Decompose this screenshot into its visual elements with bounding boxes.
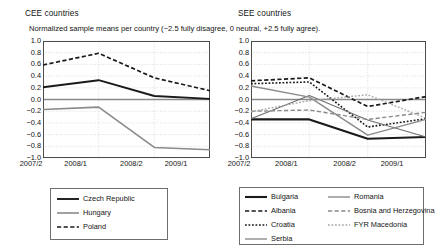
legend-item[interactable]: Hungary (57, 209, 111, 217)
legend-line-swatch (57, 209, 79, 217)
legend-line-swatch (245, 235, 267, 243)
y-tick-label: −0.4 (234, 119, 249, 126)
legend-line-swatch (328, 207, 350, 215)
x-tick-label: 2009/1 (165, 160, 188, 168)
y-tick-label: −0.6 (234, 131, 249, 138)
see-plot-area (251, 41, 426, 158)
x-tick-label: 2007/2 (20, 160, 43, 168)
x-tick-label: 2008/2 (333, 160, 356, 168)
y-tick-label: 0.8 (31, 49, 41, 56)
legend-line-swatch (328, 193, 350, 201)
cee-plot-area (43, 41, 210, 158)
y-tick-label: 0.4 (31, 72, 41, 79)
y-tick-label: 0.2 (239, 84, 249, 91)
y-tick-label: −0.2 (26, 107, 41, 114)
x-tick-label: 2008/1 (64, 160, 87, 168)
see-x-axis-labels: 2007/22008/12008/22009/1 (228, 160, 426, 172)
x-tick-label: 2008/2 (120, 160, 143, 168)
legend-label: FYR Macedonia (354, 221, 407, 229)
y-tick-label: 0.4 (239, 72, 249, 79)
legend-label: Hungary (83, 209, 111, 217)
legend-line-swatch (245, 221, 267, 229)
legend-item[interactable]: FYR Macedonia (328, 221, 407, 229)
legend-item[interactable]: Serbia (245, 235, 292, 243)
y-tick-label: −0.4 (26, 119, 41, 126)
figure-subtitle: Normalized sample means per country (−2.… (29, 24, 320, 33)
series-line (43, 53, 210, 90)
see-chart: 1.00.80.60.40.20.0−0.2−0.4−0.6−0.8−1.0 2… (228, 41, 426, 172)
see-legend: BulgariaAlbaniaCroatiaSerbiaRomaniaBosni… (239, 187, 424, 245)
cee-legend: Czech RepublicHungaryPoland (50, 188, 168, 240)
x-tick-label: 2009/1 (381, 160, 404, 168)
y-tick-label: 0.0 (31, 96, 41, 103)
y-tick-label: 0.6 (239, 61, 249, 68)
legend-item[interactable]: Czech Republic (57, 195, 135, 203)
plot-svg (251, 41, 426, 158)
y-tick-label: 0.2 (31, 84, 41, 91)
legend-label: Romania (354, 193, 384, 201)
legend-label: Albania (271, 207, 296, 215)
legend-label: Poland (83, 223, 106, 231)
cee-chart: 1.00.80.60.40.20.0−0.2−0.4−0.6−0.8−1.0 2… (20, 41, 210, 172)
x-tick-label: 2008/1 (275, 160, 298, 168)
y-tick-label: −0.8 (26, 143, 41, 150)
legend-item[interactable]: Bosnia and Herzegovina (328, 207, 435, 215)
legend-item[interactable]: Croatia (245, 221, 295, 229)
series-line (251, 86, 426, 135)
cee-panel-title: CEE countries (25, 9, 79, 18)
cee-x-axis-labels: 2007/22008/12008/22009/1 (20, 160, 210, 172)
legend-label: Czech Republic (83, 195, 135, 203)
series-line (43, 107, 210, 150)
legend-label: Croatia (271, 221, 295, 229)
legend-line-swatch (328, 221, 350, 229)
legend-line-swatch (245, 207, 267, 215)
legend-line-swatch (57, 195, 79, 203)
legend-item[interactable]: Albania (245, 207, 296, 215)
y-tick-label: 0.0 (239, 96, 249, 103)
series-line (43, 80, 210, 99)
y-tick-label: 0.6 (31, 61, 41, 68)
legend-label: Serbia (271, 235, 292, 243)
legend-line-swatch (57, 223, 79, 231)
cee-y-axis-labels: 1.00.80.60.40.20.0−0.2−0.4−0.6−0.8−1.0 (20, 41, 42, 158)
legend-line-swatch (245, 193, 267, 201)
legend-label: Bosnia and Herzegovina (354, 207, 435, 215)
y-tick-label: −0.8 (234, 143, 249, 150)
x-tick-label: 2007/2 (228, 160, 251, 168)
y-tick-label: 1.0 (31, 37, 41, 44)
legend-item[interactable]: Romania (328, 193, 384, 201)
y-tick-label: 0.8 (239, 49, 249, 56)
legend-item[interactable]: Poland (57, 223, 106, 231)
y-tick-label: −0.6 (26, 131, 41, 138)
see-panel-title: SEE countries (238, 9, 291, 18)
see-y-axis-labels: 1.00.80.60.40.20.0−0.2−0.4−0.6−0.8−1.0 (228, 41, 250, 158)
y-tick-label: −0.2 (234, 107, 249, 114)
legend-item[interactable]: Bulgaria (245, 193, 298, 201)
legend-label: Bulgaria (271, 193, 298, 201)
plot-svg (43, 41, 210, 158)
y-tick-label: 1.0 (239, 37, 249, 44)
